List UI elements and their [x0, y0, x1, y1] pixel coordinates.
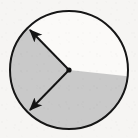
figure-root: Circle with shaded reflex sector and two…	[0, 0, 138, 138]
center-point-dot	[66, 67, 71, 72]
circle-sector-diagram: Circle with shaded reflex sector and two…	[0, 0, 138, 138]
